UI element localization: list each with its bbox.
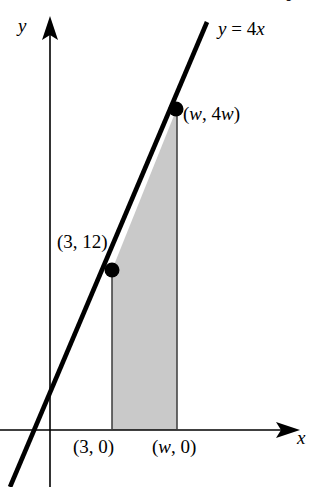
page-number-fragment: 2 bbox=[283, 0, 295, 1]
coordinate-plane-figure bbox=[0, 0, 317, 487]
point-3-12-marker bbox=[105, 263, 120, 278]
y-axis-label: y bbox=[18, 16, 26, 35]
x-axis-label: x bbox=[297, 428, 305, 447]
x-axis-mark-label-w-0: (w, 0) bbox=[152, 437, 196, 456]
shaded-region bbox=[112, 108, 177, 430]
point-label-w-4w: (w, 4w) bbox=[183, 104, 240, 123]
point-label-3-12: (3, 12) bbox=[57, 232, 108, 251]
point-w-4w-marker bbox=[169, 102, 184, 117]
x-axis-mark-label-3-0: (3, 0) bbox=[73, 437, 114, 456]
line-equation-label: y = 4x bbox=[218, 19, 265, 38]
